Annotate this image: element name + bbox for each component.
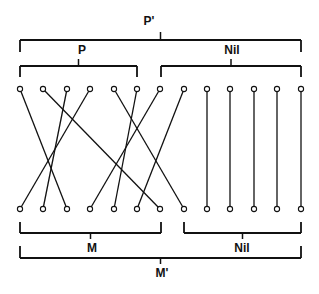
bottom-node bbox=[111, 206, 116, 211]
label-p-prime: P' bbox=[144, 14, 155, 28]
top-node bbox=[227, 86, 232, 91]
connection-line bbox=[137, 89, 184, 209]
bottom-node bbox=[40, 206, 45, 211]
bottom-node bbox=[87, 206, 92, 211]
bottom-node bbox=[251, 206, 256, 211]
bottom-node bbox=[157, 206, 162, 211]
diagram-canvas bbox=[0, 0, 319, 294]
top-node bbox=[17, 86, 22, 91]
bottom-node bbox=[204, 206, 209, 211]
top-node bbox=[274, 86, 279, 91]
label-m: M bbox=[87, 241, 97, 255]
top-node bbox=[204, 86, 209, 91]
top-node bbox=[111, 86, 116, 91]
top-node bbox=[64, 86, 69, 91]
top-node bbox=[87, 86, 92, 91]
top-node bbox=[251, 86, 256, 91]
bottom-node bbox=[298, 206, 303, 211]
connection-line bbox=[20, 89, 90, 209]
bottom-node bbox=[64, 206, 69, 211]
label-nil-bottom: Nil bbox=[234, 241, 249, 255]
permutation-diagram: P' P Nil M Nil M' bbox=[0, 0, 319, 294]
bottom-node bbox=[134, 206, 139, 211]
bottom-node bbox=[17, 206, 22, 211]
top-node bbox=[298, 86, 303, 91]
top-node bbox=[181, 86, 186, 91]
top-node bbox=[157, 86, 162, 91]
label-p: P bbox=[78, 43, 86, 57]
bottom-node bbox=[227, 206, 232, 211]
bottom-node bbox=[274, 206, 279, 211]
label-m-prime: M' bbox=[156, 266, 169, 280]
top-node bbox=[134, 86, 139, 91]
top-node bbox=[40, 86, 45, 91]
bottom-node bbox=[181, 206, 186, 211]
label-nil-top: Nil bbox=[224, 43, 239, 57]
